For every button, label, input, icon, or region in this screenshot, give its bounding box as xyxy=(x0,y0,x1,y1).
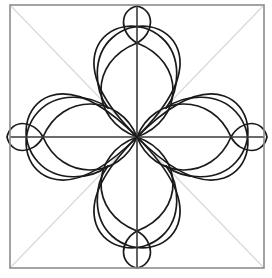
pattern-canvas xyxy=(0,0,272,278)
center-node xyxy=(135,135,138,138)
floral-quilt-block-figure xyxy=(0,0,272,278)
